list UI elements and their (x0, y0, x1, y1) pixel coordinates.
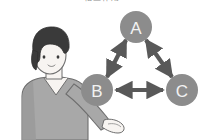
node-b-label: B (91, 82, 102, 101)
edge-b-a (107, 40, 126, 77)
figure-canvas: 相互作用 (0, 0, 203, 140)
node-a-label: A (130, 19, 142, 38)
node-c-label: C (176, 82, 188, 101)
figure-title-clipped: 相互作用 (0, 0, 203, 3)
person-eye-right (57, 55, 60, 59)
diagram-edges (107, 40, 172, 90)
person-eye-left (43, 55, 46, 59)
diagram-node-b[interactable]: B (81, 74, 113, 106)
diagram-node-c[interactable]: C (166, 74, 198, 106)
person-hair-side (32, 50, 38, 70)
diagram-node-a[interactable]: A (120, 11, 152, 43)
person-hand (102, 119, 124, 133)
diagram-svg: A B C (0, 0, 203, 140)
edge-a-c (146, 40, 172, 77)
